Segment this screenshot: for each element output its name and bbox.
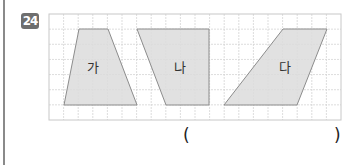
shape-label: 다	[279, 60, 291, 75]
trapezoid-1	[64, 29, 137, 105]
shapes: 가나다	[64, 29, 327, 105]
answer-close-paren: )	[334, 125, 341, 145]
answer-open-paren: (	[183, 125, 190, 145]
answer-blank[interactable]	[195, 124, 330, 146]
shape-label: 나	[174, 60, 186, 75]
trapezoid-2	[137, 29, 209, 105]
shape-label: 가	[87, 60, 99, 75]
